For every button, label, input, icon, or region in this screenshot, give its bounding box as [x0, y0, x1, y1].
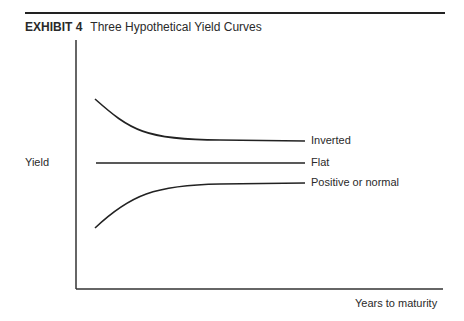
- positive-label: Positive or normal: [311, 176, 399, 188]
- flat-label: Flat: [311, 156, 329, 168]
- positive-curve: [95, 183, 305, 228]
- chart-plot: [0, 0, 464, 321]
- inverted-curve: [95, 99, 305, 141]
- y-axis-label: Yield: [25, 156, 49, 168]
- x-axis-label: Years to maturity: [355, 297, 437, 309]
- inverted-label: Inverted: [311, 134, 351, 146]
